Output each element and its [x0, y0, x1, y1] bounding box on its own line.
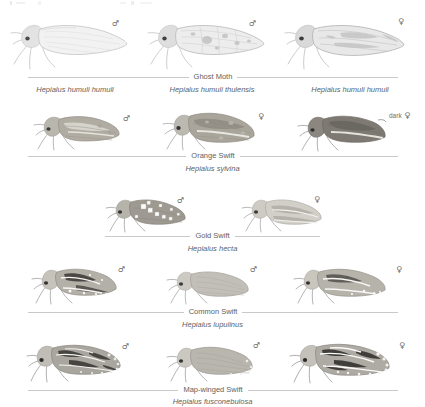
specimen-illustration	[296, 108, 388, 152]
specimen-group: ♂	[0, 334, 425, 384]
species-name-band: Gold Swift	[105, 231, 320, 241]
binomial-name: Hepialus fusconebulosa	[0, 398, 425, 406]
sex-symbol: ♂	[123, 115, 130, 123]
sex-symbol: ♂	[122, 343, 129, 351]
common-name: Map-winged Swift	[183, 386, 242, 394]
sex-symbol: ♂	[118, 266, 125, 274]
specimen-group: ♂	[0, 258, 425, 306]
binomial-name: Hepialus lupulinus	[0, 321, 425, 329]
subspecies-caption: Hepialus humuli humuli	[275, 86, 425, 94]
subspecies-captions: Hepialus humuli humuli Hepialus humuli t…	[0, 86, 425, 96]
specimen-illustration	[161, 105, 257, 151]
rule-right	[240, 156, 398, 157]
rule-left	[28, 312, 184, 313]
species-row-common-swift: ♂	[0, 258, 425, 306]
species-row-map-winged-swift: ♂	[0, 334, 425, 384]
specimen-illustration	[240, 191, 324, 233]
specimen-illustration	[165, 339, 253, 383]
sex-symbol: ♂	[112, 20, 119, 28]
specimen-illustration	[292, 261, 388, 305]
sex-variant-label: dark ♀	[389, 112, 410, 120]
rule-left	[105, 236, 190, 237]
rule-right	[237, 77, 398, 78]
specimen-group: ♂	[0, 10, 425, 72]
sex-symbol: ♀	[398, 18, 404, 26]
species-row-gold-swift: ♂	[0, 188, 425, 232]
species-name-band: Common Swift	[28, 307, 398, 317]
specimen-illustration	[288, 336, 392, 384]
subspecies-caption: Hepialus humuli thulensis	[137, 86, 287, 94]
subspecies-caption: Hepialus humuli humuli	[0, 86, 150, 94]
species-name-band: Orange Swift	[28, 151, 398, 161]
specimen-illustration	[30, 261, 118, 305]
species-name-band: Ghost Moth	[28, 72, 398, 82]
species-row-ghost-moth: ♂	[0, 10, 425, 72]
sex-symbol: ♂	[253, 342, 260, 350]
common-name: Ghost Moth	[194, 73, 233, 81]
sex-symbol: ♀	[399, 342, 405, 350]
common-name: Common Swift	[189, 308, 238, 316]
binomial-name: Hepialus hecta	[0, 245, 425, 253]
species-row-orange-swift: ♂	[0, 103, 425, 151]
specimen-group: ♂	[0, 188, 425, 232]
rule-left	[28, 77, 189, 78]
specimen-illustration	[165, 263, 251, 305]
binomial-name: Hepialus sylvina	[0, 165, 425, 173]
variant-label: dark	[389, 112, 402, 119]
sex-symbol: ♀	[396, 266, 402, 274]
rule-right	[242, 312, 398, 313]
sex-symbol: ♂	[177, 197, 184, 205]
sex-symbol: ♀	[258, 113, 264, 121]
cropped-header-remnant	[0, 0, 425, 7]
specimen-illustration	[32, 107, 122, 151]
specimen-illustration	[104, 191, 188, 233]
rule-left	[28, 390, 178, 391]
rule-right	[235, 236, 320, 237]
common-name: Orange Swift	[191, 152, 234, 160]
common-name: Gold Swift	[195, 232, 229, 240]
species-name-band: Map-winged Swift	[28, 385, 398, 395]
specimen-illustration	[25, 337, 123, 383]
sex-symbol: ♂	[250, 266, 257, 274]
sex-symbol: ♀	[314, 196, 320, 204]
sex-symbol: ♂	[249, 20, 256, 28]
specimen-illustration	[282, 12, 406, 72]
rule-left	[28, 156, 186, 157]
rule-right	[248, 390, 398, 391]
specimen-group: ♂	[0, 103, 425, 151]
